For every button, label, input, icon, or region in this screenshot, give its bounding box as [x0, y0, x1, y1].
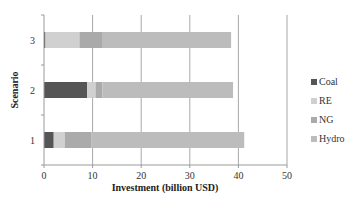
- stacked-bar-chart: 01020304050 123 Investment (billion USD)…: [0, 0, 356, 202]
- x-tick-label: 50: [282, 170, 292, 181]
- x-tick-label: 10: [88, 170, 98, 181]
- y-tick-label: 2: [30, 85, 35, 96]
- bar-segment-ng-scenario-3: [79, 32, 102, 48]
- legend-label-ng: NG: [319, 114, 333, 125]
- legend-label-re: RE: [319, 95, 332, 106]
- x-tick-labels: 01020304050: [42, 170, 293, 181]
- y-tick-labels: 123: [30, 35, 35, 146]
- bar-segment-hydro-scenario-3: [103, 32, 231, 48]
- x-tick-label: 40: [233, 170, 243, 181]
- bar-segment-re-scenario-3: [45, 32, 79, 48]
- x-tick-label: 30: [185, 170, 195, 181]
- legend-label-hydro: Hydro: [319, 133, 345, 144]
- legend: CoalRENGHydro: [311, 76, 345, 144]
- bars: [44, 32, 244, 148]
- y-tick-label: 1: [30, 135, 35, 146]
- legend-label-coal: Coal: [319, 76, 338, 87]
- bar-segment-re-scenario-2: [87, 82, 95, 98]
- legend-swatch-re: [311, 98, 317, 104]
- bar-segment-coal-scenario-2: [44, 82, 87, 98]
- x-tick-label: 20: [136, 170, 146, 181]
- bar-segment-ng-scenario-1: [65, 132, 92, 148]
- x-tick-label: 0: [42, 170, 47, 181]
- bar-segment-ng-scenario-2: [96, 82, 103, 98]
- y-axis-title: Scenario: [9, 71, 20, 108]
- x-axis-title: Investment (billion USD): [112, 182, 219, 194]
- legend-swatch-ng: [311, 117, 317, 123]
- bar-segment-coal-scenario-1: [44, 132, 54, 148]
- bar-segment-re-scenario-1: [54, 132, 65, 148]
- bar-segment-hydro-scenario-2: [102, 82, 233, 98]
- legend-swatch-hydro: [311, 136, 317, 142]
- bar-segment-hydro-scenario-1: [92, 132, 245, 148]
- legend-swatch-coal: [311, 79, 317, 85]
- y-tick-label: 3: [30, 35, 35, 46]
